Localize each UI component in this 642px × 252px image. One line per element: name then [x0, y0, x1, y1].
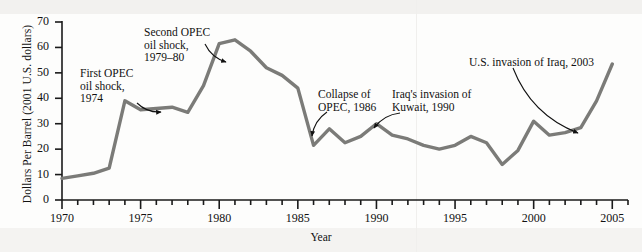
- y-tick-label: 20: [21, 141, 49, 156]
- x-tick-label: 1990: [353, 211, 399, 226]
- x-tick-label: 1995: [432, 211, 478, 226]
- x-tick-label: 2005: [589, 211, 635, 226]
- y-tick-label: 30: [21, 116, 49, 131]
- chart-page: Dollars Per Barrel (2001 U.S. dollars) Y…: [0, 0, 642, 252]
- y-tick-label: 10: [21, 167, 49, 182]
- annotation-arrow: [513, 68, 578, 133]
- y-axis-ticks: [55, 22, 62, 200]
- y-tick-label: 40: [21, 90, 49, 105]
- annotation-collapse-of-opec: Collapse of OPEC, 1986: [318, 88, 376, 113]
- annotation-us-invasion-of-iraq: U.S. invasion of Iraq, 2003: [469, 56, 594, 69]
- y-tick-label: 50: [21, 65, 49, 80]
- y-tick-label: 60: [21, 39, 49, 54]
- annotation-first-opec-oil-shock: First OPEC oil shock, 1974: [80, 67, 133, 105]
- y-tick-label: 0: [21, 192, 49, 207]
- x-tick-label: 1970: [39, 211, 85, 226]
- x-tick-label: 1975: [118, 211, 164, 226]
- x-axis-title: Year: [0, 231, 642, 243]
- y-tick-label: 70: [21, 14, 49, 29]
- annotation-second-opec-oil-shock: Second OPEC oil shock, 1979–80: [144, 26, 210, 64]
- x-tick-label: 1980: [196, 211, 242, 226]
- annotation-iraq-invasion-of-kuwait: Iraq's invasion of Kuwait, 1990: [392, 88, 471, 113]
- x-tick-label: 1985: [275, 211, 321, 226]
- x-tick-label: 2000: [511, 211, 557, 226]
- x-axis-ticks: [62, 200, 628, 209]
